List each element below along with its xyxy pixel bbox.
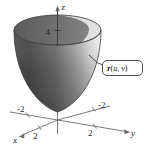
- y-tick-label-neg2: -2: [17, 104, 25, 114]
- callout-close-paren: ): [125, 64, 128, 73]
- z-axis-label: z: [61, 2, 66, 12]
- callout-label: r(u, v): [107, 64, 128, 73]
- x-axis: [19, 120, 58, 139]
- x-axis-label: x: [12, 135, 17, 145]
- y-axis-arrowhead: [124, 129, 130, 134]
- y-axis: [58, 120, 131, 134]
- y-tick-label-2: 2: [88, 128, 93, 138]
- y-axis-label: y: [130, 128, 135, 138]
- paraboloid-figure: z 4 y 2 -2 x 2 -2 r(u, v): [0, 0, 144, 147]
- x-axis-arrowhead: [19, 134, 25, 139]
- z-tick-label-4: 4: [46, 27, 51, 37]
- figure-canvas: z 4 y 2 -2 x 2 -2 r(u, v): [0, 0, 144, 147]
- x-tick-label-2: 2: [33, 131, 38, 141]
- x-tick-label-neg2: -2: [98, 100, 106, 110]
